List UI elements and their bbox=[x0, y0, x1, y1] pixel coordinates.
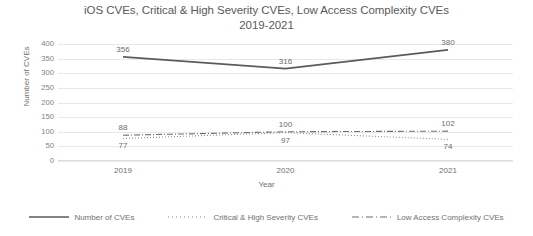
y-tick-label: 400 bbox=[20, 40, 54, 48]
legend-item[interactable]: Critical & High Severity CVEs bbox=[168, 213, 317, 222]
y-tick-label: 150 bbox=[20, 113, 54, 121]
legend-label: Critical & High Severity CVEs bbox=[213, 213, 317, 222]
x-axis-title: Year bbox=[0, 180, 533, 189]
y-tick-label: 350 bbox=[20, 55, 54, 63]
x-tick-label: 2020 bbox=[256, 166, 316, 175]
data-label: 100 bbox=[262, 120, 310, 129]
legend-item[interactable]: Number of CVEs bbox=[29, 213, 134, 222]
plot-area: 35631638077977488100102 bbox=[58, 44, 513, 161]
legend-label: Low Access Complexity CVEs bbox=[397, 213, 504, 222]
data-label: 74 bbox=[424, 142, 472, 151]
y-tick-label: 100 bbox=[20, 128, 54, 136]
legend-swatch-dashdot-icon bbox=[352, 213, 392, 221]
data-label: 380 bbox=[424, 38, 472, 47]
chart-legend: Number of CVEsCritical & High Severity C… bbox=[0, 208, 533, 226]
gridline bbox=[58, 161, 513, 162]
legend-swatch-dotted-icon bbox=[168, 213, 208, 221]
legend-swatch-solid-icon bbox=[29, 213, 69, 221]
chart-container: iOS CVEs, Critical & High Severity CVEs,… bbox=[0, 0, 533, 236]
y-tick-label: 300 bbox=[20, 69, 54, 77]
x-tick-label: 2019 bbox=[93, 166, 153, 175]
data-label: 97 bbox=[262, 136, 310, 145]
y-tick-label: 200 bbox=[20, 99, 54, 107]
data-label: 77 bbox=[99, 141, 147, 150]
legend-item[interactable]: Low Access Complexity CVEs bbox=[352, 213, 504, 222]
y-tick-label: 0 bbox=[20, 157, 54, 165]
y-tick-label: 50 bbox=[20, 142, 54, 150]
x-axis-ticks: 201920202021 bbox=[58, 166, 513, 178]
y-axis-ticks: 400350300250200150100500 bbox=[18, 44, 54, 161]
legend-label: Number of CVEs bbox=[74, 213, 134, 222]
data-label: 356 bbox=[99, 45, 147, 54]
data-label: 316 bbox=[262, 57, 310, 66]
chart-title-line-2: 2019-2021 bbox=[0, 18, 533, 33]
x-tick-label: 2021 bbox=[418, 166, 478, 175]
data-label: 88 bbox=[99, 123, 147, 132]
chart-title-line-1: iOS CVEs, Critical & High Severity CVEs,… bbox=[84, 4, 449, 16]
y-tick-label: 250 bbox=[20, 84, 54, 92]
chart-title: iOS CVEs, Critical & High Severity CVEs,… bbox=[0, 3, 533, 33]
data-label: 102 bbox=[424, 119, 472, 128]
